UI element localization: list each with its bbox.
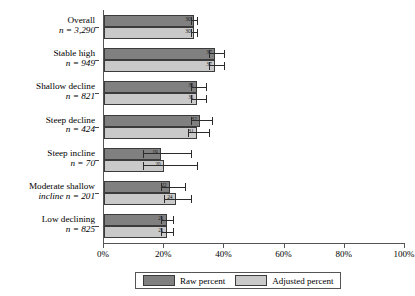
error-bar-cap-low [191, 83, 192, 91]
category-tick [95, 160, 99, 161]
category-axis-labels: Overalln = 3,290Stable highn = 949Shallo… [0, 10, 99, 243]
error-bar [161, 187, 185, 188]
category-sample-size: n = 949 [0, 59, 95, 69]
bar-raw-percent [104, 15, 194, 27]
error-bar-cap-high [224, 62, 225, 70]
error-bar-cap-high [185, 183, 186, 191]
error-bar-cap-low [191, 29, 192, 37]
error-bar-cap-high [173, 216, 174, 224]
error-bar-cap-high [173, 228, 174, 236]
error-bar-cap-low [188, 129, 189, 137]
error-bar-cap-high [206, 83, 207, 91]
x-axis-tick [103, 243, 104, 248]
x-axis-tick-label: 100% [394, 249, 415, 259]
category-label: Stable highn = 949 [0, 49, 95, 69]
error-bar-cap-low [191, 17, 192, 25]
error-bar [188, 132, 209, 133]
x-axis-tick [163, 243, 164, 248]
legend-item: Raw percent [143, 275, 225, 286]
category-tick [95, 226, 99, 227]
bar-row: 32 [104, 115, 405, 127]
x-axis-tick-label: 80% [336, 249, 353, 259]
error-bar-cap-high [224, 50, 225, 58]
bar-adjusted-percent [104, 27, 194, 39]
error-bar-cap-high [191, 195, 192, 203]
error-bar-cap-high [209, 129, 210, 137]
legend-label: Adjusted percent [272, 276, 333, 286]
legend-label: Raw percent [180, 276, 225, 286]
bar-group: 3231 [104, 115, 405, 139]
x-axis-tick [223, 243, 224, 248]
category-sample-size: n = 821 [0, 92, 95, 102]
category-label: Moderate shallowincline n = 201 [0, 182, 95, 202]
bar-row: 37 [104, 60, 405, 72]
bar-group: 3131 [104, 81, 405, 105]
x-axis-tick [344, 243, 345, 248]
bar-row: 22 [104, 181, 405, 193]
error-bar-cap-high [206, 95, 207, 103]
x-axis-tick-label: 0% [97, 249, 109, 259]
bar-group: 2224 [104, 181, 405, 205]
category-sample-size: incline n = 201 [0, 192, 95, 202]
bar-row: 24 [104, 193, 405, 205]
x-axis-tick-label: 60% [275, 249, 292, 259]
bar-raw-percent [104, 48, 215, 60]
error-bar [209, 53, 224, 54]
error-bar-cap-high [197, 29, 198, 37]
error-bar-cap-high [212, 117, 213, 125]
bar-group: 3737 [104, 48, 405, 72]
bar-adjusted-percent [104, 127, 197, 139]
bar-adjusted-percent [104, 60, 215, 72]
error-bar-cap-low [191, 95, 192, 103]
error-bar [191, 99, 206, 100]
error-bar-cap-high [197, 17, 198, 25]
error-bar [164, 199, 191, 200]
x-axis-tick-label: 40% [215, 249, 232, 259]
error-bar-cap-high [191, 150, 192, 158]
bar-adjusted-percent [104, 93, 197, 105]
bar-row: 31 [104, 81, 405, 93]
bar-row: 21 [104, 214, 405, 226]
category-label: Steep inclinen = 70 [0, 149, 95, 169]
error-bar-cap-high [197, 162, 198, 170]
bar-group: 2121 [104, 214, 405, 238]
category-label: Steep declinen = 424 [0, 116, 95, 136]
category-tick [95, 60, 99, 61]
bar-value-label: 30 [185, 16, 190, 22]
bar-row: 37 [104, 48, 405, 60]
error-bar-cap-low [143, 162, 144, 170]
error-bar-cap-low [164, 195, 165, 203]
error-bar [143, 153, 191, 154]
bar-group: 1920 [104, 148, 405, 172]
error-bar [143, 165, 197, 166]
legend-swatch [143, 275, 175, 286]
x-axis-tick-labels: 0%20%40%60%80%100% [103, 249, 405, 263]
category-tick [95, 27, 99, 28]
error-bar [191, 120, 212, 121]
bar-row: 21 [104, 226, 405, 238]
bar-group: 3030 [104, 15, 405, 39]
chart-legend: Raw percentAdjusted percent [135, 272, 341, 289]
error-bar-cap-low [209, 50, 210, 58]
bar-row: 30 [104, 15, 405, 27]
x-axis-tick [284, 243, 285, 248]
error-bar-cap-low [143, 150, 144, 158]
category-sample-size: n = 825 [0, 225, 95, 235]
bar-row: 20 [104, 160, 405, 172]
error-bar [191, 87, 206, 88]
category-tick [95, 193, 99, 194]
bar-row: 31 [104, 93, 405, 105]
bar-raw-percent [104, 115, 200, 127]
bar-value-label: 30 [185, 28, 190, 34]
legend-swatch [235, 275, 267, 286]
category-tick [95, 127, 99, 128]
bar-row: 19 [104, 148, 405, 160]
error-bar [161, 232, 173, 233]
category-sample-size: n = 424 [0, 125, 95, 135]
error-bar-cap-low [161, 216, 162, 224]
error-bar [209, 65, 224, 66]
legend-item: Adjusted percent [235, 275, 333, 286]
x-axis-tick-label: 20% [155, 249, 172, 259]
error-bar-cap-low [161, 183, 162, 191]
